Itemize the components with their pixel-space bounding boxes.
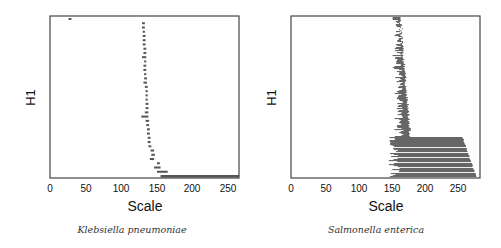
x-axis-label: Scale xyxy=(20,198,270,214)
x-tick: 0 xyxy=(288,183,294,194)
x-axis-label: Scale xyxy=(261,198,501,214)
x-tick: 50 xyxy=(320,183,331,194)
x-tick: 100 xyxy=(113,183,130,194)
x-tick: 250 xyxy=(450,183,467,194)
x-tick: 100 xyxy=(351,183,368,194)
x-tick: 200 xyxy=(417,183,434,194)
x-tick: 250 xyxy=(220,183,237,194)
x-tick: 150 xyxy=(384,183,401,194)
x-tick: 150 xyxy=(149,183,166,194)
x-tick: 50 xyxy=(80,183,91,194)
caption-salmonella: Salmonella enterica xyxy=(251,224,501,235)
caption-klebsiella: Klebsiella pneumoniae xyxy=(7,224,257,235)
chart-panel-klebsiella: H1 0 50 100 150 200 250 Scale Klebsiella… xyxy=(0,0,250,248)
y-axis-label: H1 xyxy=(23,83,38,113)
chart-panel-salmonella: H1 0 50 100 150 200 250 Scale Salmonella… xyxy=(251,0,501,248)
plot-area-klebsiella xyxy=(0,0,250,200)
bars-salmonella xyxy=(389,17,477,177)
y-axis-label: H1 xyxy=(264,83,279,113)
x-tick: 0 xyxy=(47,183,53,194)
plot-area-salmonella xyxy=(251,0,501,200)
x-tick: 200 xyxy=(184,183,201,194)
bars-klebsiella xyxy=(69,18,239,178)
